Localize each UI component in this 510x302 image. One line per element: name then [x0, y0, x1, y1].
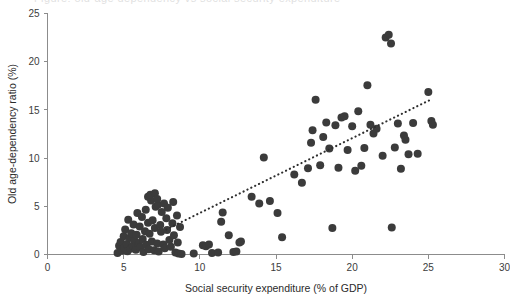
scatter-point — [319, 133, 327, 141]
scatter-point — [401, 136, 409, 144]
y-tick-label: 0 — [34, 249, 40, 260]
scatter-point — [237, 237, 245, 245]
scatter-point — [385, 31, 393, 39]
scatter-point — [379, 152, 387, 160]
scatter-point — [174, 238, 182, 246]
scatter-point — [217, 218, 225, 226]
scatter-plot-figure: Figure: old-age dependency vs social sec… — [0, 0, 510, 302]
scatter-point — [219, 209, 227, 217]
scatter-point — [190, 250, 198, 258]
scatter-point — [391, 144, 399, 152]
scatter-point — [341, 112, 349, 120]
scatter-point — [149, 216, 157, 224]
x-tick-label: 30 — [499, 262, 510, 273]
scatter-point — [348, 122, 356, 130]
scatter-point — [278, 233, 286, 241]
scatter-point — [414, 150, 422, 158]
scatter-point — [394, 119, 402, 127]
x-tick-label: 5 — [121, 262, 127, 273]
axis-labels: 0510152025051015202530Social security ex… — [6, 8, 510, 294]
scatter-point — [405, 150, 413, 158]
scatter-point — [397, 165, 405, 173]
scatter-point — [173, 211, 181, 219]
scatter-point — [138, 213, 146, 221]
truncated-title: Figure: old-age dependency vs social sec… — [0, 0, 510, 7]
trend-line-path — [166, 99, 431, 229]
trend-line — [166, 99, 431, 229]
scatter-point — [290, 170, 298, 178]
scatter-point — [309, 126, 317, 134]
scatter-point — [142, 206, 150, 214]
scatter-point — [322, 118, 330, 126]
x-axis-title: Social security expenditure (% of GDP) — [185, 282, 367, 294]
x-tick-label: 15 — [270, 262, 282, 273]
scatter-point — [331, 121, 339, 129]
x-tick-label: 25 — [423, 262, 435, 273]
data-points — [114, 31, 437, 258]
scatter-point — [388, 224, 396, 232]
x-tick-label: 0 — [45, 262, 51, 273]
scatter-point — [307, 139, 315, 147]
scatter-point — [316, 161, 324, 169]
scatter-point — [156, 221, 164, 229]
scatter-point — [248, 193, 256, 201]
scatter-point — [429, 121, 437, 129]
scatter-point — [357, 162, 365, 170]
x-tick-label: 20 — [347, 262, 359, 273]
scatter-point — [266, 197, 274, 205]
scatter-point — [304, 164, 312, 172]
y-tick-label: 10 — [28, 153, 40, 164]
scatter-point — [205, 240, 213, 248]
scatter-point — [312, 96, 320, 104]
scatter-point — [169, 198, 177, 206]
scatter-point — [214, 249, 222, 257]
scatter-point — [153, 195, 161, 203]
scatter-point — [225, 231, 233, 239]
y-tick-label: 15 — [28, 105, 40, 116]
scatter-point — [168, 219, 176, 227]
scatter-point — [334, 164, 342, 172]
y-tick-label: 5 — [34, 201, 40, 212]
scatter-point — [328, 224, 336, 232]
scatter-point — [363, 81, 371, 89]
scatter-point — [344, 146, 352, 154]
scatter-point — [298, 179, 306, 187]
y-tick-label: 20 — [28, 56, 40, 67]
scatter-point — [232, 248, 240, 256]
scatter-point — [170, 231, 178, 239]
scatter-point — [409, 119, 417, 127]
scatter-point — [387, 39, 395, 47]
y-tick-label: 25 — [28, 8, 40, 19]
plot-canvas: 0510152025051015202530Social security ex… — [0, 0, 510, 302]
scatter-point — [424, 88, 432, 96]
scatter-point — [274, 209, 282, 217]
y-axis-title: Old age-dependency ratio (%) — [6, 64, 18, 204]
scatter-point — [255, 199, 263, 207]
scatter-point — [360, 144, 368, 152]
scatter-point — [260, 154, 268, 162]
scatter-point — [354, 107, 362, 115]
x-tick-label: 10 — [194, 262, 206, 273]
axes — [44, 14, 505, 259]
scatter-point — [178, 250, 186, 258]
